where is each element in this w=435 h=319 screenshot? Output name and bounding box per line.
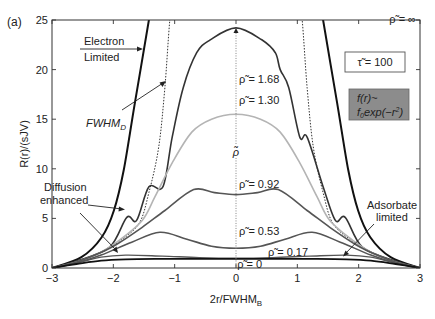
x-tick-label: −1 <box>168 272 181 284</box>
curve-label: ρ̃ = ∞ <box>389 13 416 25</box>
chart: (a) ρ̃ −3−2−101230510152025 2r/FWHMB R(r… <box>0 0 435 319</box>
x-tick-label: 3 <box>417 272 423 284</box>
rho-arrow-label: ρ̃ <box>232 146 239 158</box>
y-tick-label: 10 <box>36 163 48 175</box>
chart-svg: (a) ρ̃ −3−2−101230510152025 2r/FWHMB R(r… <box>0 0 435 319</box>
curve-label: ρ̃ = 0.17 <box>268 246 308 258</box>
profile-line-1: f(r)~ <box>357 92 378 104</box>
annotation-text: enhanced <box>40 194 88 206</box>
annotation-text: Diffusion <box>44 181 87 193</box>
x-tick-label: 0 <box>233 272 239 284</box>
arrow-line <box>122 83 163 110</box>
y-tick-label: 25 <box>36 14 48 26</box>
annotation-fwhm-d: FWHMD <box>86 81 166 132</box>
tau-box: τ̃ = 100 <box>345 52 405 72</box>
profile-box: f(r)~ f0exp(−r2) <box>349 89 409 120</box>
y-tick-label: 15 <box>36 113 48 125</box>
annotation-text: Limited <box>84 51 119 63</box>
curve-label: ρ̃ = 0.53 <box>239 225 279 237</box>
annotation-text: Electron <box>84 35 124 47</box>
annotation-text: Adsorbate <box>367 199 417 211</box>
arrowhead-icon <box>119 207 126 212</box>
x-axis-label: 2r/FWHMB <box>210 293 262 308</box>
tau-value: τ̃ = 100 <box>357 56 392 68</box>
curve-label: ρ̃ = 0.92 <box>239 178 279 190</box>
curve-labels: ρ̃ = ∞ρ̃ = 1.68ρ̃ = 1.30ρ̃ = 0.92ρ̃ = 0.… <box>237 13 416 270</box>
y-tick-label: 20 <box>36 64 48 76</box>
x-tick-label: 2 <box>356 272 362 284</box>
x-tick-label: −2 <box>107 272 120 284</box>
annotation-text: FWHMD <box>86 117 126 132</box>
curve-label: ρ̃ = 1.30 <box>239 94 279 106</box>
curve-label: ρ̃ = 1.68 <box>239 73 279 85</box>
annotation-electron-limited: Electron Limited <box>80 35 143 63</box>
y-tick-label: 0 <box>42 262 48 274</box>
arrowhead-icon <box>137 47 143 52</box>
curve-label: ρ̃ = 0 <box>237 258 262 270</box>
y-axis-label: R(r)/(sJV) <box>18 120 30 168</box>
x-tick-label: 1 <box>294 272 300 284</box>
panel-label: (a) <box>7 15 22 29</box>
curve-1 <box>297 0 420 268</box>
annotation-text: limited <box>376 211 408 223</box>
y-tick-label: 5 <box>42 212 48 224</box>
arrow-line <box>88 205 122 209</box>
